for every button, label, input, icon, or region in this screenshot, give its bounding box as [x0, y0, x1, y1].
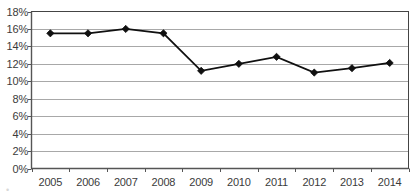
x-axis-label: 2007	[114, 177, 138, 188]
x-axis-label: 2013	[340, 177, 364, 188]
x-axis-label: 2012	[302, 177, 326, 188]
x-axis-label: 2014	[378, 177, 402, 188]
line-chart: 0%2%4%6%8%10%12%14%16%18% 20052006200720…	[0, 0, 417, 195]
x-axis-tick-labels: 2005200620072008200920102011201220132014	[0, 0, 417, 195]
x-axis-label: 2011	[265, 177, 288, 188]
x-axis-label: 2010	[227, 177, 251, 188]
x-axis-label: 2009	[189, 177, 213, 188]
scan-artifact: •	[6, 186, 9, 195]
x-axis-label: 2008	[152, 177, 176, 188]
x-axis-label: 2005	[39, 177, 63, 188]
x-axis-label: 2006	[76, 177, 100, 188]
